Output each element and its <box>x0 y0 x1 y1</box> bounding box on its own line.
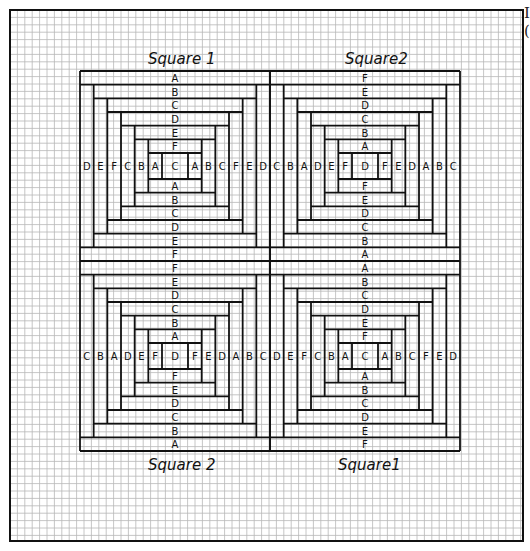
strip-letter: C <box>172 412 179 423</box>
strip-letter: C <box>362 114 369 125</box>
strip-letter: F <box>362 73 368 84</box>
strip-letter: E <box>395 161 401 172</box>
strip-letter: C <box>409 351 416 362</box>
strip-letter: B <box>436 161 443 172</box>
quilt-diagram-svg: AFDDBEEECDFFDCCCEBBBFAAACFACCEBBBDCAACDD… <box>0 0 530 551</box>
strip-letter: A <box>381 351 388 362</box>
strip-letter: E <box>362 195 368 206</box>
quilt-block-bottom-left: FACCEBBBDCAACDDDBEEEAFFFD <box>80 261 270 451</box>
strip-letter: C <box>362 222 369 233</box>
strip-letter: B <box>97 351 104 362</box>
strip-letter: A <box>232 351 239 362</box>
graph-paper-diagram: AFDDBEEECDFFDCCCEBBBFAAACFACCEBBBDCAACDD… <box>0 0 530 551</box>
strip-letter: F <box>172 263 178 274</box>
strip-letter: F <box>152 351 158 362</box>
strip-letter: A <box>362 263 369 274</box>
strip-letter: A <box>362 371 369 382</box>
strip-letter: F <box>301 351 307 362</box>
strip-letter: D <box>361 412 369 423</box>
strip-letter: C <box>273 161 280 172</box>
strip-letter: A <box>111 351 118 362</box>
strip-letter: B <box>246 351 253 362</box>
strip-letter: A <box>191 161 198 172</box>
strip-letter: D <box>171 351 179 362</box>
strip-letter: A <box>172 331 179 342</box>
strip-letter: C <box>314 351 321 362</box>
strip-letter: E <box>172 385 178 396</box>
strip-letter: E <box>172 128 178 139</box>
strip-letter: A <box>301 161 308 172</box>
strip-letter: F <box>382 161 388 172</box>
strip-letter: E <box>362 318 368 329</box>
strip-letter: E <box>362 87 368 98</box>
strip-letter: F <box>172 141 178 152</box>
strip-letter: B <box>287 161 294 172</box>
strip-letter: D <box>314 161 322 172</box>
strip-letter: B <box>172 87 179 98</box>
strip-letter: D <box>361 304 369 315</box>
strip-letter: C <box>172 304 179 315</box>
strip-letter: D <box>273 351 281 362</box>
strip-letter: B <box>172 426 179 437</box>
strip-letter: D <box>361 161 369 172</box>
strip-letter: B <box>172 195 179 206</box>
strip-letter: C <box>172 208 179 219</box>
label-bottom-right: Square1 <box>338 456 401 474</box>
strip-letter: C <box>219 161 226 172</box>
strip-letter: B <box>395 351 402 362</box>
strip-letter: E <box>328 161 334 172</box>
strip-letter: D <box>83 161 91 172</box>
strip-letter: A <box>172 181 179 192</box>
strip-letter: A <box>172 73 179 84</box>
strip-letter: A <box>152 161 159 172</box>
strip-letter: E <box>172 277 178 288</box>
strip-letter: D <box>171 290 179 301</box>
strip-letter: A <box>172 439 179 450</box>
strip-letter: E <box>287 351 293 362</box>
strip-letter: F <box>342 161 348 172</box>
label-top-left: Square 1 <box>148 50 215 68</box>
strip-letter: B <box>362 128 369 139</box>
strip-letter: F <box>362 181 368 192</box>
strip-letter: D <box>361 100 369 111</box>
strip-letter: B <box>328 351 335 362</box>
strip-letter: C <box>83 351 90 362</box>
quilt-block-top-left: AFDDBEEECDFFDCCCEBBBFAAAC <box>80 71 270 261</box>
strip-letter: D <box>171 222 179 233</box>
strip-letter: D <box>124 351 132 362</box>
strip-letter: D <box>171 114 179 125</box>
strip-letter: D <box>218 351 226 362</box>
strip-letter: E <box>172 236 178 247</box>
strip-letter: D <box>259 161 267 172</box>
strip-letter: F <box>423 351 429 362</box>
strip-letter: F <box>172 249 178 260</box>
label-top-right: Square2 <box>345 50 408 68</box>
strip-letter: F <box>192 351 198 362</box>
strip-letter: E <box>362 426 368 437</box>
strip-letter: F <box>362 331 368 342</box>
strip-letter: A <box>362 249 369 260</box>
cutoff-text-2: ( <box>524 22 530 40</box>
strip-letter: F <box>111 161 117 172</box>
strip-letter: F <box>233 161 239 172</box>
strip-letter: D <box>449 351 457 362</box>
strip-letter: B <box>205 161 212 172</box>
strip-letter: E <box>97 161 103 172</box>
strip-letter: B <box>362 385 369 396</box>
strip-letter: D <box>171 398 179 409</box>
strip-letter: A <box>342 351 349 362</box>
strip-letter: C <box>124 161 131 172</box>
strip-letter: C <box>362 290 369 301</box>
strip-letter: C <box>362 351 369 362</box>
strip-letter: D <box>408 161 416 172</box>
strip-letter: E <box>246 161 252 172</box>
strip-letter: B <box>172 318 179 329</box>
strip-letter: B <box>362 277 369 288</box>
strip-letter: E <box>138 351 144 362</box>
label-bottom-left: Square 2 <box>148 456 215 474</box>
strip-letter: C <box>260 351 267 362</box>
strip-letter: A <box>422 161 429 172</box>
strip-letter: C <box>362 398 369 409</box>
strip-letter: C <box>172 100 179 111</box>
cutoff-text-1: I <box>524 4 530 22</box>
